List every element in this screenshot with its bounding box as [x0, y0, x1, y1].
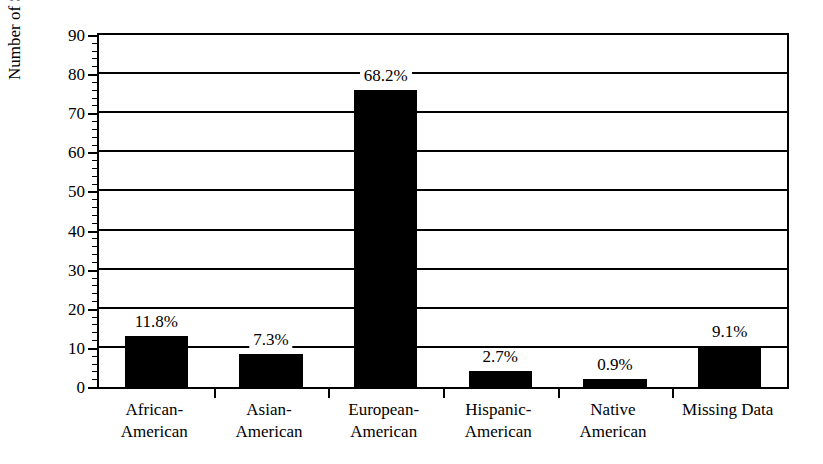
y-tick-minor: [92, 58, 99, 59]
bar: [354, 90, 417, 387]
y-tick-label: 40: [45, 222, 85, 239]
y-tick-minor: [92, 340, 99, 341]
y-tick-label: 80: [45, 66, 85, 83]
y-tick-minor: [92, 121, 99, 122]
y-tick-minor: [92, 223, 99, 224]
gridline: [99, 268, 787, 270]
y-tick-major: [88, 348, 99, 350]
y-tick-minor: [92, 90, 99, 91]
y-tick-minor: [92, 293, 99, 294]
y-tick-minor: [92, 66, 99, 67]
y-tick-label: 0: [45, 379, 85, 396]
bar-value-label: 11.8%: [131, 313, 182, 330]
y-tick-minor: [92, 215, 99, 216]
x-axis-category-label: Asian-American: [235, 399, 302, 443]
y-tick-minor: [92, 184, 99, 185]
y-tick-minor: [92, 324, 99, 325]
bar: [469, 371, 532, 387]
y-tick-minor: [92, 105, 99, 106]
x-tick: [214, 387, 216, 398]
bar-value-label: 9.1%: [708, 323, 751, 340]
y-tick-label: 20: [45, 300, 85, 317]
bar: [583, 379, 646, 387]
y-tick-label: 70: [45, 105, 85, 122]
bar-value-label: 2.7%: [479, 348, 522, 365]
y-tick-minor: [92, 317, 99, 318]
gridline: [99, 189, 787, 191]
y-tick-major: [88, 191, 99, 193]
y-tick-minor: [92, 364, 99, 365]
gridline: [99, 307, 787, 309]
x-label-line: American: [235, 421, 302, 443]
y-tick-minor: [92, 129, 99, 130]
x-label-line: American: [465, 421, 532, 443]
x-label-line: African-: [126, 400, 184, 419]
y-tick-minor: [92, 168, 99, 169]
y-tick-minor: [92, 98, 99, 99]
gridline: [99, 229, 787, 231]
y-tick-major: [88, 309, 99, 311]
x-tick: [328, 387, 330, 398]
y-tick-minor: [92, 379, 99, 380]
x-label-line: American: [579, 421, 646, 443]
y-tick-minor: [92, 51, 99, 52]
x-label-line: Asian-: [246, 400, 291, 419]
x-axis-category-label: European-American: [348, 399, 419, 443]
y-tick-minor: [92, 176, 99, 177]
y-tick-minor: [92, 262, 99, 263]
y-tick-minor: [92, 285, 99, 286]
gridline: [99, 111, 787, 113]
y-tick-minor: [92, 356, 99, 357]
x-label-line: Hispanic-: [465, 400, 531, 419]
y-tick-minor: [92, 160, 99, 161]
y-tick-label: 90: [45, 27, 85, 44]
x-label-line: Native: [590, 400, 635, 419]
y-tick-minor: [92, 301, 99, 302]
gridline: [99, 150, 787, 152]
y-tick-minor: [92, 246, 99, 247]
y-tick-minor: [92, 145, 99, 146]
y-tick-minor: [92, 137, 99, 138]
y-tick-major: [88, 270, 99, 272]
x-tick: [443, 387, 445, 398]
y-axis-title: Number of Subjects: [4, 0, 26, 122]
y-tick-minor: [92, 43, 99, 44]
x-label-line: Missing Data: [682, 400, 773, 419]
gridline: [99, 72, 787, 74]
y-tick-major: [88, 74, 99, 76]
x-label-line: American: [121, 421, 188, 443]
bar: [125, 336, 188, 387]
y-tick-minor: [92, 371, 99, 372]
x-tick: [558, 387, 560, 398]
bar-value-label: 68.2%: [360, 67, 412, 84]
y-tick-label: 10: [45, 339, 85, 356]
y-tick-minor: [92, 332, 99, 333]
y-tick-minor: [92, 238, 99, 239]
bar-value-label: 0.9%: [593, 356, 636, 373]
y-tick-minor: [92, 207, 99, 208]
x-axis-category-label: NativeAmerican: [579, 399, 646, 443]
x-axis-category-label: Missing Data: [682, 399, 773, 421]
x-label-line: European-: [348, 400, 419, 419]
y-tick-minor: [92, 278, 99, 279]
y-tick-minor: [92, 199, 99, 200]
y-tick-minor: [92, 254, 99, 255]
y-tick-label: 60: [45, 144, 85, 161]
bar: [239, 354, 302, 387]
plot-area: 0102030405060708090 11.8%7.3%68.2%2.7%0.…: [97, 33, 789, 389]
x-axis-category-label: African-American: [121, 399, 188, 443]
bar-value-label: 7.3%: [249, 331, 292, 348]
x-axis-category-label: Hispanic-American: [465, 399, 532, 443]
y-tick-label: 30: [45, 261, 85, 278]
y-tick-major: [88, 152, 99, 154]
x-tick: [672, 387, 674, 398]
gridline: [99, 346, 787, 348]
y-tick-minor: [92, 82, 99, 83]
bar-chart: Number of Subjects 0102030405060708090 1…: [0, 0, 823, 464]
y-tick-major: [88, 231, 99, 233]
y-tick-major: [88, 35, 99, 37]
bar: [698, 346, 761, 387]
y-tick-label: 50: [45, 183, 85, 200]
y-tick-major: [88, 387, 99, 389]
y-tick-major: [88, 113, 99, 115]
